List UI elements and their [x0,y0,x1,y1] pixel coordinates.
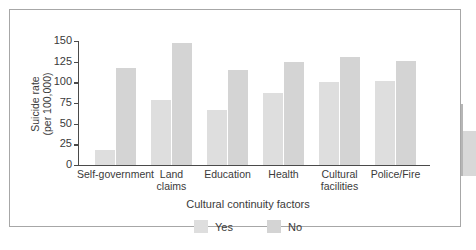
bar-group [263,41,304,165]
figure: Suicide rate (per 100,000) 1501251007550… [0,0,476,250]
bar-no [340,57,360,165]
bar-group [151,41,192,165]
y-tick-mark [74,41,78,42]
bar-no [228,70,248,165]
x-tick-label: Police/Fire [356,169,435,181]
legend-label: No [288,221,302,233]
y-tick-mark [74,124,78,125]
y-tick-label: 25 [60,137,72,149]
y-tick-mark [74,82,78,83]
x-axis-title: Cultural continuity factors [10,198,476,210]
y-tick-label: 100 [54,75,72,87]
bar-no [116,68,136,165]
plot-area: 1501251007550250 Self-governmentLand cla… [78,41,416,165]
bar-yes [151,100,171,165]
bar-group [375,41,416,165]
y-tick-mark [74,62,78,63]
bar-no [284,62,304,165]
y-tick-label: 150 [54,34,72,46]
bar-no [396,61,416,165]
legend-swatch [194,220,208,233]
y-axis-line [78,41,79,165]
y-axis-title: Suicide rate (per 100,000) [29,62,53,146]
clipped-edge-bar [463,131,476,176]
y-tick-label: 50 [60,117,72,129]
legend-item-no: No [267,220,302,233]
bar-group [319,41,360,165]
chart-legend: YesNo [10,220,476,233]
bar-yes [375,81,395,165]
bar-group [95,41,136,165]
figure-frame: Suicide rate (per 100,000) 1501251007550… [9,9,461,227]
legend-item-yes: Yes [194,220,233,233]
bar-no [172,43,192,165]
y-tick-label: 75 [60,96,72,108]
legend-label: Yes [215,221,233,233]
y-tick-label: 0 [66,158,72,170]
y-tick-mark [74,144,78,145]
y-tick-label: 125 [54,55,72,67]
x-axis-line [78,165,430,166]
bar-yes [207,110,227,165]
legend-swatch [267,220,281,233]
bar-yes [95,150,115,165]
bar-group [207,41,248,165]
bar-yes [263,93,283,165]
y-tick-mark [74,103,78,104]
y-tick-mark [74,165,78,166]
bar-yes [319,82,339,165]
